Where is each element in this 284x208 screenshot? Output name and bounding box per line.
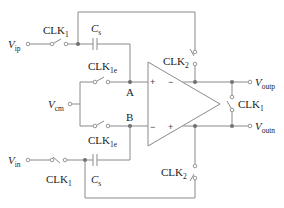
label-cs-bottom: Cs (91, 173, 101, 188)
node-dot-outn-fb (193, 124, 197, 128)
switch-clk1e-bottom: CLK1e (80, 121, 148, 149)
label-voutn: Voutn (255, 120, 275, 135)
label-clk2-bottom: CLK2 (161, 166, 187, 181)
label-vcm: Vcm (48, 98, 64, 113)
label-cs-top: Cs (91, 22, 101, 37)
opamp-bottom-minus: − (150, 122, 155, 132)
label-node-a: A (126, 86, 134, 98)
opamp-top-minus: − (168, 77, 173, 87)
label-clk1-bottom: CLK1 (46, 173, 72, 188)
label-clk1e-top: CLK1e (88, 60, 118, 75)
label-vip: Vip (8, 38, 21, 53)
switch-clk1-top: CLK1 (43, 24, 93, 46)
label-clk2-top: CLK2 (163, 55, 189, 70)
node-a (128, 80, 132, 84)
label-node-b: B (126, 111, 133, 123)
label-clk1e-bottom: CLK1e (88, 134, 118, 149)
label-clk1-output: CLK1 (238, 98, 264, 113)
input-vip: Vip (8, 38, 50, 53)
output-voutn: Voutn (183, 120, 275, 135)
label-vin: Vin (8, 154, 21, 169)
node-dot-vip (76, 42, 80, 46)
node-dot-outp-fb (193, 80, 197, 84)
input-vin: Vin (8, 154, 50, 169)
opamp: + − − + (148, 62, 220, 146)
switch-clk2-bottom: CLK2 (161, 126, 197, 181)
opamp-top-plus: + (150, 77, 155, 87)
label-clk1-top: CLK1 (43, 24, 69, 39)
output-voutp: Voutp (183, 76, 275, 91)
switch-clk1e-top: CLK1e (80, 60, 148, 84)
label-voutp: Voutp (255, 76, 275, 91)
input-vcm: Vcm (48, 82, 80, 126)
opamp-bottom-plus: + (168, 122, 173, 132)
circuit-diagram: CLK2 Vip CLK1 Cs Vcm CLK1e A (0, 0, 284, 208)
